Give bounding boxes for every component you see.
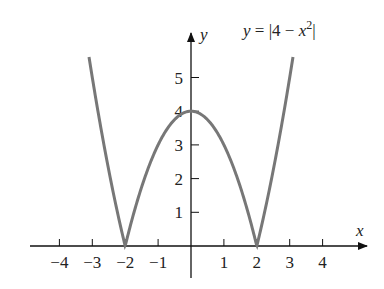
x-tick-label: 4	[318, 253, 327, 272]
axes: xy−4−3−2−1123412345	[30, 25, 367, 278]
x-tick-label: −2	[116, 253, 134, 272]
y-tick-label: 1	[175, 203, 184, 222]
x-tick-label: −3	[83, 253, 101, 272]
y-tick-label: 2	[175, 170, 184, 189]
x-axis-label: x	[355, 221, 364, 240]
x-tick-label: 3	[285, 253, 294, 272]
x-tick-label: −4	[50, 253, 69, 272]
chart-title: y = |4 − x2|	[241, 18, 316, 40]
chart: xy−4−3−2−1123412345 y = |4 − x2|	[0, 0, 384, 289]
y-tick-label: 3	[175, 136, 184, 155]
x-tick-label: −1	[149, 253, 167, 272]
x-tick-label: 2	[253, 253, 262, 272]
y-tick-label: 5	[175, 69, 184, 88]
y-axis-label: y	[198, 25, 208, 44]
x-tick-label: 1	[220, 253, 229, 272]
